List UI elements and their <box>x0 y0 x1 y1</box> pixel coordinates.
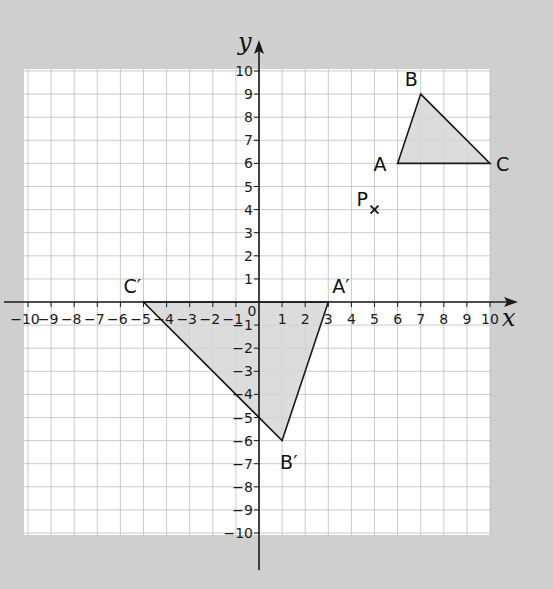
x-tick-label: 7 <box>416 311 425 327</box>
x-tick-label: 8 <box>439 311 448 327</box>
y-tick-label: −9 <box>232 502 253 518</box>
y-tick-label: 8 <box>244 109 253 125</box>
x-tick-label: −4 <box>153 311 174 327</box>
vertex-label: B <box>405 68 418 90</box>
x-tick-label: 1 <box>278 311 287 327</box>
x-tick-label: −3 <box>176 311 197 327</box>
y-axis-label: y <box>237 28 252 56</box>
y-tick-label: 7 <box>244 132 253 148</box>
y-tick-label: 6 <box>244 155 253 171</box>
x-tick-label: −7 <box>84 311 105 327</box>
origin-label: 0 <box>248 303 257 319</box>
point-label: P <box>357 188 368 210</box>
x-tick-label: 10 <box>481 311 499 327</box>
y-tick-label: −6 <box>232 433 253 449</box>
y-tick-label: −2 <box>232 340 253 356</box>
x-tick-label: 4 <box>347 311 356 327</box>
y-tick-label: −3 <box>232 363 253 379</box>
x-tick-label: 5 <box>370 311 379 327</box>
y-tick-label: 4 <box>244 202 253 218</box>
y-tick-label: 3 <box>244 225 253 241</box>
diagram-stage: −10−9−8−7−6−5−4−3−2−11234567891010987654… <box>0 0 553 589</box>
x-tick-label: 6 <box>393 311 402 327</box>
y-tick-label: 2 <box>244 248 253 264</box>
x-tick-label: −5 <box>130 311 151 327</box>
x-axis-label: x <box>502 304 516 332</box>
x-tick-label: 9 <box>462 311 471 327</box>
y-tick-label: −8 <box>232 479 253 495</box>
vertex-label: A′ <box>332 275 349 297</box>
x-tick-label: 2 <box>301 311 310 327</box>
coordinate-grid: −10−9−8−7−6−5−4−3−2−11234567891010987654… <box>0 0 553 589</box>
x-tick-label: −6 <box>107 311 128 327</box>
x-tick-label: −9 <box>38 311 59 327</box>
y-tick-label: −10 <box>223 525 253 541</box>
x-tick-label: 3 <box>324 311 333 327</box>
y-tick-label: −4 <box>232 386 253 402</box>
vertex-label: C <box>496 153 509 175</box>
x-tick-label: −2 <box>199 311 220 327</box>
y-tick-label: −5 <box>232 410 253 426</box>
vertex-label: A <box>374 153 387 175</box>
x-tick-label: −8 <box>61 311 82 327</box>
y-tick-label: 1 <box>244 271 253 287</box>
y-tick-label: 10 <box>235 63 253 79</box>
vertex-label: C′ <box>124 275 142 297</box>
x-tick-label: −10 <box>10 311 40 327</box>
y-tick-label: −1 <box>232 317 253 333</box>
y-tick-label: 9 <box>244 86 253 102</box>
vertex-label: B′ <box>280 451 297 473</box>
y-tick-label: 5 <box>244 179 253 195</box>
y-tick-label: −7 <box>232 456 253 472</box>
